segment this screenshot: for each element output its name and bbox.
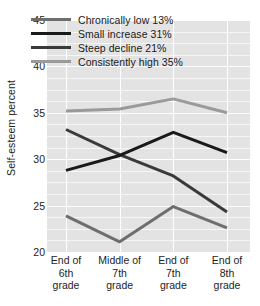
legend-item[interactable]: Steep decline 21% <box>31 41 183 54</box>
legend-item[interactable]: Chronically low 13% <box>31 13 183 26</box>
x-axis-tick-labels: End of6thgradeMiddle of7thgradeEnd of7th… <box>47 254 250 306</box>
x-axis-tick-label-line: End of <box>196 254 258 267</box>
y-axis-tick-label: 30 <box>21 153 45 165</box>
legend-swatch <box>31 60 71 63</box>
chart-figure: Self-esteem percent 202530354045 Chronic… <box>0 0 260 306</box>
legend-swatch <box>31 46 71 49</box>
legend-item[interactable]: Consistently high 35% <box>31 55 183 68</box>
legend-label: Consistently high 35% <box>78 56 183 68</box>
legend-label: Chronically low 13% <box>78 14 174 26</box>
series-line <box>66 207 227 242</box>
y-axis-tick-label: 25 <box>21 200 45 212</box>
series-line <box>66 130 227 213</box>
y-axis-title-text: Self-esteem percent <box>5 80 17 176</box>
series-line <box>66 99 227 113</box>
x-axis-tick-label-line: 8th <box>196 267 258 280</box>
legend-label: Small increase 31% <box>78 28 172 40</box>
x-axis-tick-label: End of8thgrade <box>196 254 258 292</box>
legend-swatch <box>31 18 71 21</box>
x-axis-tick-label-line: grade <box>196 279 258 292</box>
legend: Chronically low 13%Small increase 31%Ste… <box>31 13 183 68</box>
legend-swatch <box>31 32 71 35</box>
y-axis-tick-label: 35 <box>21 107 45 119</box>
legend-item[interactable]: Small increase 31% <box>31 27 183 40</box>
legend-label: Steep decline 21% <box>78 42 166 54</box>
